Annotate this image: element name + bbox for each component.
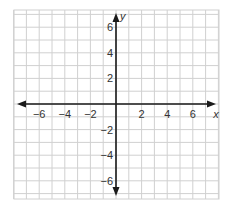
x-tick-label: −2 [84, 108, 97, 120]
y-axis-label: y [119, 10, 127, 22]
y-tick-label: 4 [107, 47, 113, 59]
x-tick-label: −6 [33, 108, 46, 120]
y-tick-label: −2 [100, 124, 113, 136]
y-tick-label: 6 [107, 21, 113, 33]
x-tick-label: 6 [190, 108, 196, 120]
y-axis-down-arrow-icon [113, 187, 120, 196]
x-axis-left-arrow-icon [17, 101, 26, 108]
coordinate-plane: −6−4−2246642−2−4−6xy [0, 0, 227, 211]
tick-labels: −6−4−2246642−2−4−6xy [33, 10, 219, 187]
x-axis-right-arrow-icon [207, 101, 216, 108]
y-tick-label: −6 [100, 175, 113, 187]
x-tick-label: 4 [164, 108, 170, 120]
y-tick-label: 2 [107, 72, 113, 84]
x-tick-label: −4 [59, 108, 72, 120]
x-axis-label: x [212, 108, 219, 120]
x-tick-label: 2 [139, 108, 145, 120]
y-tick-label: −4 [100, 149, 113, 161]
